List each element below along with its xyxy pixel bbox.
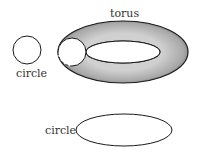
meridian-circle bbox=[58, 38, 86, 66]
bottom-ellipse bbox=[76, 114, 172, 146]
torus-label: torus bbox=[110, 7, 139, 20]
torus-diagram: torus circle circle bbox=[0, 0, 203, 159]
small-circle-label: circle bbox=[16, 67, 47, 80]
small-circle bbox=[13, 36, 41, 64]
ellipse-circle-label: circle bbox=[45, 124, 76, 137]
torus-inner-edge bbox=[86, 41, 160, 63]
